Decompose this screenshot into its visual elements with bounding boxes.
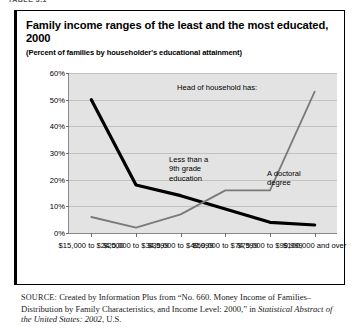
y-axis-tick-label: 50% [50,95,65,104]
source-text-2: , U.S. [102,314,122,324]
y-axis-tick-label: 60% [50,69,65,78]
title-block: Family income ranges of the least and th… [26,19,334,57]
plot-area: 0%10%20%30%40%50%60% $15,000 to $24,000$… [68,73,337,234]
figure-frame: Family income ranges of the least and th… [14,10,345,285]
source-note: SOURCE: Created by Information Plus from… [21,292,343,325]
clipped-table-header: TABLE 3.1 [8,0,47,3]
y-axis-tick-label: 10% [50,202,65,211]
page-title: Family income ranges of the least and th… [26,19,334,45]
annotation-head-of-household: Head of household has: [177,83,257,92]
y-axis-tick-label: 20% [50,175,65,184]
figure-subtitle: (Percent of families by householder's ed… [26,48,334,57]
x-axis-tick-mark [225,233,226,237]
series-lines [69,73,337,233]
x-axis-tick-mark [91,233,92,237]
y-axis-tick-label: 30% [50,149,65,158]
y-axis-tick-mark [66,233,69,234]
x-axis-tick-mark [315,233,316,237]
y-axis-tick-label: 40% [50,122,65,131]
y-axis-tick-label: 0% [54,229,65,238]
chart-area: 0%10%20%30%40%50%60% $15,000 to $24,000$… [26,69,338,277]
x-axis-tick-label: $100,000 and over [283,241,346,250]
x-axis-tick-mark [270,233,271,237]
annotation-less-than-9th-grade: Less than a 9th grade education [169,155,208,183]
x-axis-tick-mark [136,233,137,237]
x-axis-tick-mark [181,233,182,237]
source-label: SOURCE: [21,293,57,302]
annotation-doctoral-degree: A doctoral degree [267,169,301,188]
